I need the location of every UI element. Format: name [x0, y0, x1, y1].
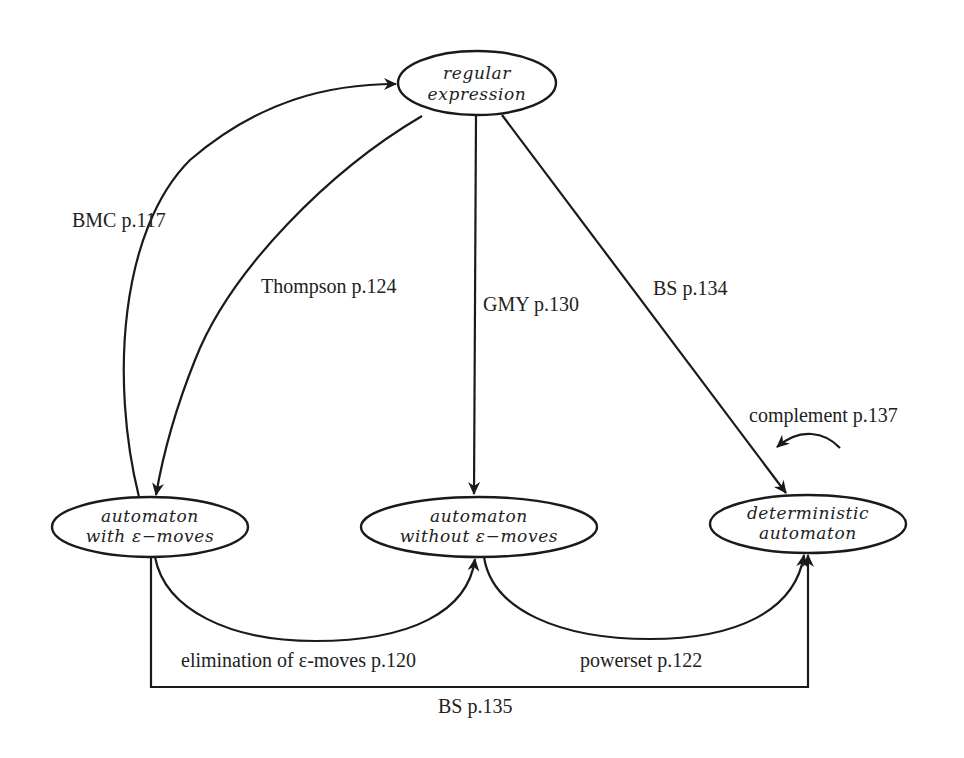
- edge-powerset: [484, 555, 804, 639]
- label-bs134: BS p.134: [653, 277, 727, 300]
- node-noeps-line1: automaton: [430, 506, 528, 526]
- label-bs135: BS p.135: [438, 695, 512, 718]
- node-eps-line1: automaton: [101, 506, 199, 526]
- edge-thompson: [156, 116, 422, 495]
- node-deterministic-automaton: deterministic automaton: [710, 495, 906, 553]
- automata-conversion-diagram: regular expression automaton with ε−move…: [0, 0, 964, 758]
- edge-elimination: [155, 557, 475, 641]
- node-regular-expression: regular expression: [398, 51, 556, 115]
- label-thompson: Thompson p.124: [261, 275, 397, 298]
- node-det-line2: automaton: [759, 523, 857, 543]
- edge-gmy: [474, 115, 476, 494]
- edge-complement: [777, 434, 840, 448]
- node-automaton-without-eps: automaton without ε−moves: [361, 497, 597, 557]
- label-complement: complement p.137: [749, 404, 898, 427]
- label-powerset: powerset p.122: [580, 649, 702, 672]
- label-gmy: GMY p.130: [483, 293, 579, 316]
- edge-labels: BMC p.117 Thompson p.124 GMY p.130 BS p.…: [72, 209, 898, 718]
- node-automaton-with-eps: automaton with ε−moves: [52, 497, 248, 557]
- node-regex-line2: expression: [428, 84, 527, 104]
- node-eps-line2: with ε−moves: [86, 526, 214, 546]
- edges: [124, 84, 840, 687]
- label-bmc: BMC p.117: [72, 209, 166, 232]
- node-det-line1: deterministic: [747, 503, 869, 523]
- node-noeps-line2: without ε−moves: [400, 526, 558, 546]
- label-elimination: elimination of ε-moves p.120: [181, 649, 416, 672]
- node-regex-line1: regular: [443, 63, 511, 83]
